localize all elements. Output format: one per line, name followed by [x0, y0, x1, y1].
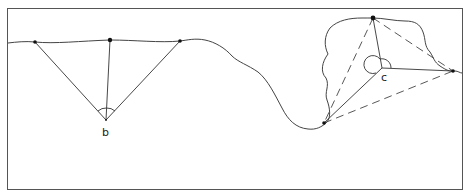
angle-arc-b-right — [107, 108, 116, 111]
terrain-profile — [8, 18, 462, 129]
label-c: c — [381, 71, 387, 84]
star-marker-icon — [322, 121, 326, 125]
sight-line-b-left — [35, 42, 106, 120]
vertex-b-point — [105, 119, 107, 121]
sight-line-c-top — [373, 18, 382, 68]
star-marker-icon — [178, 39, 182, 43]
sight-line-b-right — [106, 41, 180, 120]
sight-line-c-bottom — [324, 68, 382, 123]
star-marker-icon — [33, 40, 37, 44]
diagram-frame — [8, 9, 463, 190]
dot-marker-icon — [371, 16, 376, 21]
dashed-line-bottom-right — [324, 71, 453, 123]
angle-arc-c — [364, 56, 380, 74]
sight-line-c-right — [382, 68, 453, 71]
star-marker-icon — [451, 69, 455, 73]
dashed-line-top-right — [373, 18, 453, 71]
label-b: b — [102, 126, 109, 139]
angle-arc-b-left — [98, 108, 107, 111]
dot-marker-icon — [108, 38, 112, 42]
vertex-b-group — [35, 40, 180, 120]
vertex-c-group — [324, 18, 453, 123]
survey-diagram: b c — [0, 0, 469, 196]
